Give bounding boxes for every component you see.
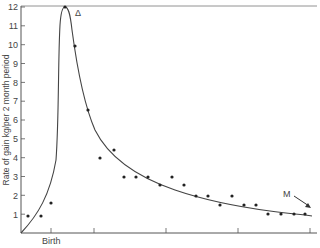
svg-text:11: 11 (9, 21, 18, 31)
svg-text:8: 8 (13, 78, 18, 88)
m-annotation: M (283, 189, 291, 199)
svg-text:4: 4 (13, 153, 18, 163)
svg-text:6: 6 (13, 115, 18, 125)
y-ticks (21, 7, 25, 214)
y-axis-title: Rate of gain kg/per 2 month period (1, 54, 11, 185)
birth-label: Birth (42, 236, 61, 246)
svg-text:10: 10 (8, 40, 18, 50)
growth-rate-chart: 1 2 3 4 5 6 7 8 9 10 11 12 Birth Rate of… (0, 0, 320, 248)
svg-text:12: 12 (8, 2, 18, 12)
svg-text:3: 3 (13, 172, 18, 182)
svg-text:1: 1 (13, 210, 18, 220)
svg-text:5: 5 (13, 134, 18, 144)
svg-text:2: 2 (13, 191, 18, 201)
svg-text:9: 9 (13, 59, 18, 69)
delta-annotation: Δ (75, 8, 81, 18)
data-points (26, 5, 306, 217)
svg-text:7: 7 (13, 96, 18, 106)
fitted-curve (21, 7, 312, 233)
x-ticks (51, 228, 310, 233)
m-arrow-icon (294, 196, 311, 208)
